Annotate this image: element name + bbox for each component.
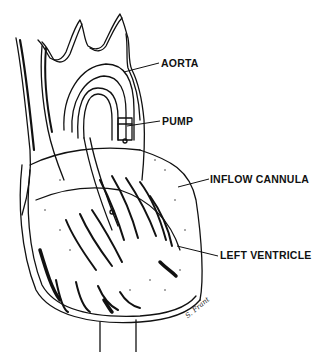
label-aorta: AORTA [161, 58, 199, 69]
label-inflow-cannula: INFLOW CANNULA [210, 174, 309, 185]
label-pump: PUMP [162, 116, 193, 127]
heart-pump-diagram: AORTA PUMP INFLOW CANNULA LEFT VENTRICLE… [0, 0, 319, 352]
label-left-ventricle: LEFT VENTRICLE [220, 250, 311, 261]
